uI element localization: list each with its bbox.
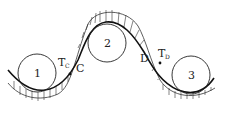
hatch-band-outline xyxy=(8,12,215,98)
point-c-label: C xyxy=(76,62,84,75)
pulley-3-label: 3 xyxy=(188,69,195,82)
belt-line xyxy=(8,22,214,93)
point-d-dot xyxy=(159,62,162,65)
point-c-dot xyxy=(69,73,72,76)
tension-d-subscript: D xyxy=(165,53,170,60)
pulley-1-label: 1 xyxy=(34,67,41,80)
belt-diagram: 1 2 3 C D T C T D xyxy=(0,0,227,116)
point-d-label: D xyxy=(140,52,149,65)
pulley-2-label: 2 xyxy=(104,37,111,50)
tension-c-subscript: C xyxy=(65,62,70,69)
